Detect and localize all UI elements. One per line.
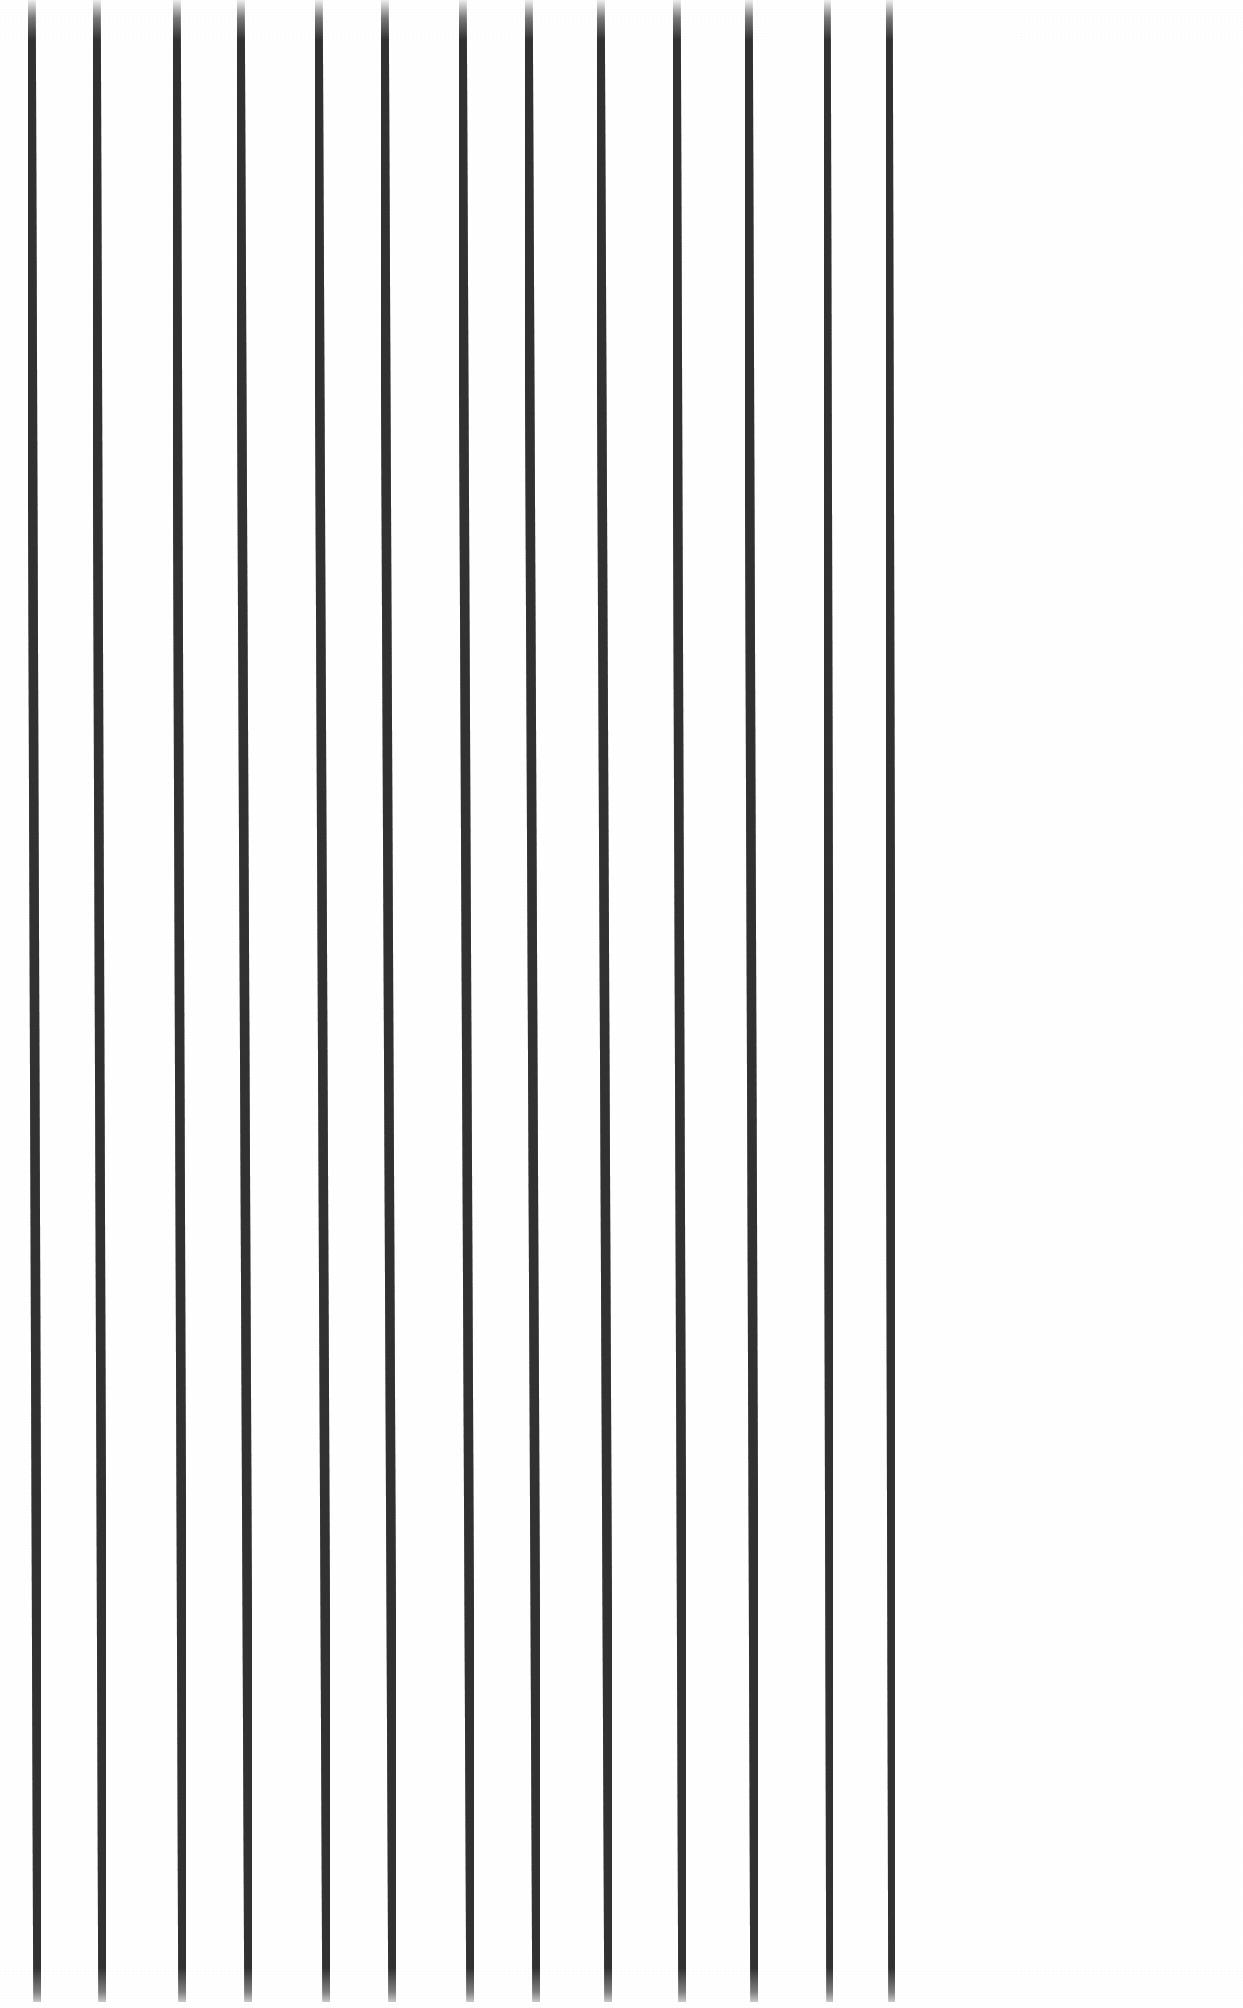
page-canvas xyxy=(0,0,1243,2008)
vertical-lines-drawing xyxy=(0,0,1243,2008)
stroke-end-fade-overlay xyxy=(0,0,1243,2008)
